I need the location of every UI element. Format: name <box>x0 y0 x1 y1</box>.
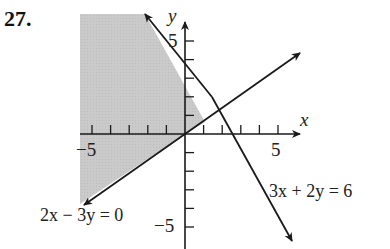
line-2x-minus-3y-eq-0 <box>185 53 300 134</box>
y-tick-label-neg5: −5 <box>154 215 174 236</box>
x-axis-label: x <box>299 109 309 130</box>
equation-label-3x-2y: 3x + 2y = 6 <box>269 181 352 201</box>
x-tick-label-5: 5 <box>271 139 281 160</box>
graph: x y 5 −5 −5 5 3x + 2y = 6 2x − 3y = 0 <box>0 0 390 249</box>
y-axis-label: y <box>166 5 177 26</box>
y-tick-label-5: 5 <box>168 30 178 51</box>
y-axis <box>185 22 194 249</box>
line-3x-plus-2y-eq-6-lower <box>212 97 292 241</box>
shaded-region <box>80 14 205 204</box>
equation-label-2x-3y: 2x − 3y = 0 <box>40 205 123 225</box>
x-tick-label-neg5: −5 <box>76 139 96 160</box>
